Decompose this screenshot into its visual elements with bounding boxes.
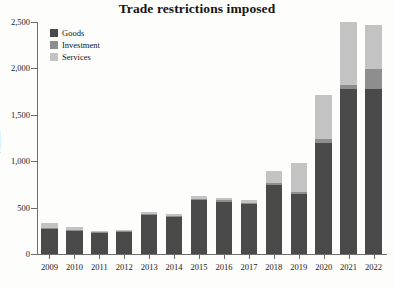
- y-axis-label: 2,000: [0, 63, 30, 73]
- bar-segment-services[interactable]: [315, 95, 331, 139]
- bar-segment-investment[interactable]: [291, 192, 307, 194]
- bar-segment-investment[interactable]: [241, 203, 257, 204]
- legend-item-label: Goods: [62, 28, 84, 38]
- legend-item-label: Investment: [62, 40, 100, 50]
- bar-segment-services[interactable]: [340, 22, 356, 84]
- bar-stack[interactable]: [266, 22, 282, 254]
- bar-segment-services[interactable]: [216, 198, 232, 200]
- bar-stack[interactable]: [216, 22, 232, 254]
- bar-segment-investment[interactable]: [266, 183, 282, 185]
- bar-segment-services[interactable]: [116, 230, 132, 231]
- bar-segment-services[interactable]: [291, 163, 307, 192]
- bar-segment-investment[interactable]: [91, 232, 107, 233]
- x-axis-tick: [324, 255, 325, 259]
- bar-segment-investment[interactable]: [41, 228, 57, 229]
- bar-segment-investment[interactable]: [166, 216, 182, 217]
- x-axis-tick: [174, 255, 175, 259]
- bar-segment-investment[interactable]: [315, 139, 331, 143]
- chart-legend: GoodsInvestmentServices: [50, 27, 100, 63]
- legend-item[interactable]: Services: [50, 51, 100, 62]
- bar-segment-goods[interactable]: [216, 202, 232, 254]
- bar-segment-goods[interactable]: [41, 229, 57, 254]
- bar-stack[interactable]: [291, 22, 307, 254]
- bar-segment-goods[interactable]: [266, 185, 282, 254]
- bar-segment-goods[interactable]: [340, 89, 356, 254]
- chart-container: Trade restrictions imposed Number 05001,…: [0, 0, 394, 288]
- x-axis-line: [37, 254, 387, 255]
- bar-segment-goods[interactable]: [365, 89, 381, 254]
- bar-segment-goods[interactable]: [66, 231, 82, 254]
- x-axis-label: 2022: [357, 262, 391, 272]
- bar-stack[interactable]: [241, 22, 257, 254]
- bar-segment-goods[interactable]: [166, 217, 182, 254]
- bar-segment-services[interactable]: [365, 25, 381, 70]
- bar-segment-investment[interactable]: [66, 230, 82, 231]
- y-axis-label: 500: [0, 203, 30, 213]
- bar-segment-goods[interactable]: [191, 200, 207, 254]
- services-swatch: [50, 53, 58, 61]
- bar-segment-investment[interactable]: [116, 231, 132, 232]
- bar-segment-investment[interactable]: [216, 200, 232, 201]
- bar-segment-investment[interactable]: [340, 85, 356, 89]
- goods-swatch: [50, 29, 58, 37]
- x-axis-tick: [199, 255, 200, 259]
- bar-segment-goods[interactable]: [116, 232, 132, 254]
- x-axis-tick: [49, 255, 50, 259]
- y-axis-label: 0: [0, 249, 30, 259]
- x-axis-tick: [299, 255, 300, 259]
- bar-segment-goods[interactable]: [91, 233, 107, 254]
- bar-segment-investment[interactable]: [191, 199, 207, 200]
- bar-stack[interactable]: [141, 22, 157, 254]
- legend-item-label: Services: [62, 52, 91, 62]
- bar-segment-investment[interactable]: [365, 69, 381, 89]
- bar-segment-services[interactable]: [141, 212, 157, 214]
- bar-segment-goods[interactable]: [241, 204, 257, 254]
- x-axis-tick: [124, 255, 125, 259]
- x-axis-tick: [249, 255, 250, 259]
- legend-item[interactable]: Investment: [50, 39, 100, 50]
- bar-segment-services[interactable]: [66, 227, 82, 230]
- bar-stack[interactable]: [315, 22, 331, 254]
- y-axis-label: 2,500: [0, 17, 30, 27]
- bar-segment-services[interactable]: [41, 223, 57, 227]
- bar-segment-goods[interactable]: [141, 215, 157, 254]
- y-axis-label: 1,000: [0, 156, 30, 166]
- bar-segment-services[interactable]: [166, 214, 182, 216]
- bar-stack[interactable]: [340, 22, 356, 254]
- x-axis-tick: [224, 255, 225, 259]
- x-axis-tick: [99, 255, 100, 259]
- x-axis-tick: [149, 255, 150, 259]
- bar-stack[interactable]: [191, 22, 207, 254]
- bar-segment-services[interactable]: [91, 231, 107, 232]
- x-axis-tick: [374, 255, 375, 259]
- bar-segment-investment[interactable]: [141, 214, 157, 215]
- bar-segment-goods[interactable]: [315, 143, 331, 254]
- y-axis-title: Number: [0, 131, 2, 154]
- bar-segment-services[interactable]: [241, 200, 257, 203]
- bar-segment-services[interactable]: [191, 196, 207, 198]
- bar-stack[interactable]: [365, 22, 381, 254]
- investment-swatch: [50, 41, 58, 49]
- x-axis-tick: [274, 255, 275, 259]
- x-axis-tick: [349, 255, 350, 259]
- bar-stack[interactable]: [116, 22, 132, 254]
- y-axis-tick: [31, 254, 37, 255]
- legend-item[interactable]: Goods: [50, 27, 100, 38]
- bar-segment-services[interactable]: [266, 171, 282, 182]
- bar-stack[interactable]: [166, 22, 182, 254]
- x-axis-tick: [74, 255, 75, 259]
- y-axis-label: 1,500: [0, 110, 30, 120]
- bar-segment-goods[interactable]: [291, 194, 307, 254]
- chart-title: Trade restrictions imposed: [0, 1, 394, 17]
